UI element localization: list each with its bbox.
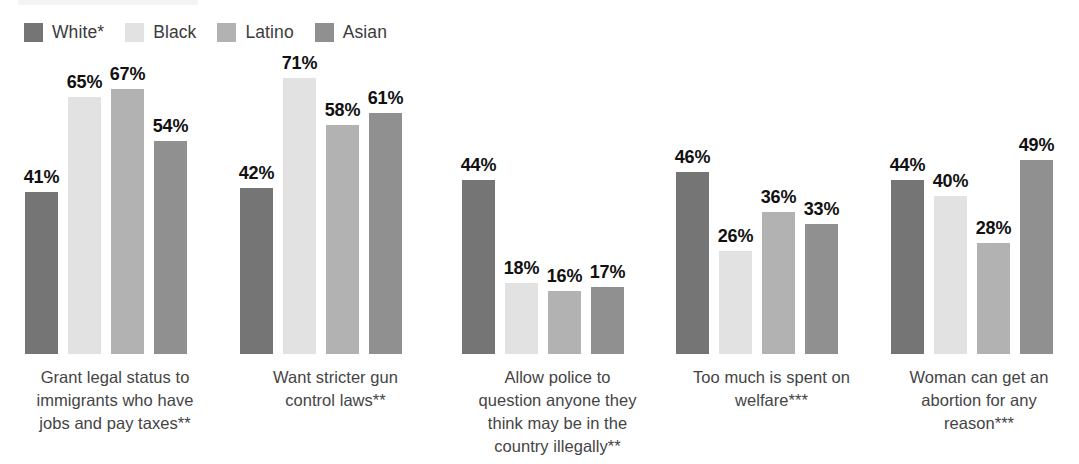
category-label-line: reason*** bbox=[879, 412, 1079, 435]
bar-group: 41%65%67%54% bbox=[25, 54, 187, 354]
bar-slot[interactable]: 18% bbox=[505, 54, 538, 354]
bar-rect[interactable] bbox=[591, 287, 624, 354]
category-label-line: Woman can get an bbox=[879, 366, 1079, 389]
bar-value-label: 26% bbox=[718, 227, 753, 245]
scan-artifact bbox=[18, 0, 198, 5]
category-label-line: welfare*** bbox=[664, 389, 879, 412]
bar-group: 46%26%36%33% bbox=[676, 54, 838, 354]
bar-group-bars: 44%40%28%49% bbox=[891, 54, 1053, 354]
bar-group-bars: 46%26%36%33% bbox=[676, 54, 838, 354]
bar-value-label: 61% bbox=[368, 89, 403, 107]
category-label-line: country illegally** bbox=[450, 435, 665, 458]
legend-swatch-icon bbox=[315, 23, 334, 42]
bar-slot[interactable]: 44% bbox=[462, 54, 495, 354]
bar-rect[interactable] bbox=[111, 89, 144, 354]
bar-rect[interactable] bbox=[462, 180, 495, 354]
bar-rect[interactable] bbox=[891, 180, 924, 354]
bar-rect[interactable] bbox=[977, 243, 1010, 354]
bar-rect[interactable] bbox=[805, 224, 838, 354]
bar-value-label: 44% bbox=[461, 156, 496, 174]
category-label-line: jobs and pay taxes** bbox=[0, 412, 230, 435]
category-label-line: question anyone they bbox=[450, 389, 665, 412]
category-label-line: Allow police to bbox=[450, 366, 665, 389]
bar-value-label: 40% bbox=[933, 172, 968, 190]
bar-value-label: 65% bbox=[67, 73, 102, 91]
category-label-line: Too much is spent on bbox=[664, 366, 879, 389]
bar-group: 44%18%16%17% bbox=[462, 54, 624, 354]
legend-item-white[interactable]: White* bbox=[24, 22, 104, 43]
bar-rect[interactable] bbox=[154, 141, 187, 354]
legend-label: Asian bbox=[343, 22, 387, 43]
bar-value-label: 67% bbox=[110, 65, 145, 83]
bar-group-bars: 44%18%16%17% bbox=[462, 54, 624, 354]
bar-rect[interactable] bbox=[762, 212, 795, 354]
bar-slot[interactable]: 71% bbox=[283, 54, 316, 354]
bar-rect[interactable] bbox=[68, 97, 101, 354]
bar-rect[interactable] bbox=[326, 125, 359, 354]
bar-value-label: 17% bbox=[590, 263, 625, 281]
chart-container: White*BlackLatinoAsian 41%65%67%54%42%71… bbox=[0, 0, 1079, 464]
bar-slot[interactable]: 67% bbox=[111, 54, 144, 354]
legend-label: Black bbox=[153, 22, 196, 43]
legend-item-black[interactable]: Black bbox=[125, 22, 196, 43]
bar-value-label: 36% bbox=[761, 188, 796, 206]
category-label: Woman can get anabortion for anyreason**… bbox=[879, 366, 1079, 435]
bar-value-label: 33% bbox=[804, 200, 839, 218]
bar-group: 42%71%58%61% bbox=[240, 54, 402, 354]
bar-group: 44%40%28%49% bbox=[891, 54, 1053, 354]
bar-slot[interactable]: 26% bbox=[719, 54, 752, 354]
bar-value-label: 46% bbox=[675, 148, 710, 166]
legend-swatch-icon bbox=[24, 23, 43, 42]
category-label-line: immigrants who have bbox=[0, 389, 230, 412]
bar-rect[interactable] bbox=[676, 172, 709, 354]
category-label: Grant legal status toimmigrants who have… bbox=[0, 366, 230, 435]
bar-slot[interactable]: 40% bbox=[934, 54, 967, 354]
bar-slot[interactable]: 44% bbox=[891, 54, 924, 354]
category-label: Too much is spent onwelfare*** bbox=[664, 366, 879, 412]
bar-rect[interactable] bbox=[548, 291, 581, 354]
category-label-line: Want stricter gun bbox=[228, 366, 443, 389]
bar-value-label: 49% bbox=[1019, 136, 1054, 154]
bar-rect[interactable] bbox=[25, 192, 58, 354]
bar-slot[interactable]: 33% bbox=[805, 54, 838, 354]
bar-group-bars: 41%65%67%54% bbox=[25, 54, 187, 354]
bar-value-label: 42% bbox=[239, 164, 274, 182]
bar-slot[interactable]: 61% bbox=[369, 54, 402, 354]
bar-slot[interactable]: 41% bbox=[25, 54, 58, 354]
category-label: Allow police toquestion anyone theythink… bbox=[450, 366, 665, 458]
plot-area: 41%65%67%54%42%71%58%61%44%18%16%17%46%2… bbox=[0, 54, 1079, 354]
category-label-line: control laws** bbox=[228, 389, 443, 412]
category-label-line: abortion for any bbox=[879, 389, 1079, 412]
category-label-line: Grant legal status to bbox=[0, 366, 230, 389]
chart-legend: White*BlackLatinoAsian bbox=[24, 21, 408, 43]
bar-value-label: 16% bbox=[547, 267, 582, 285]
legend-item-asian[interactable]: Asian bbox=[315, 22, 387, 43]
bar-rect[interactable] bbox=[719, 251, 752, 354]
bar-rect[interactable] bbox=[369, 113, 402, 354]
bar-slot[interactable]: 54% bbox=[154, 54, 187, 354]
category-axis-labels: Grant legal status toimmigrants who have… bbox=[0, 366, 1079, 464]
bar-slot[interactable]: 17% bbox=[591, 54, 624, 354]
legend-item-latino[interactable]: Latino bbox=[217, 22, 293, 43]
bar-slot[interactable]: 58% bbox=[326, 54, 359, 354]
bar-slot[interactable]: 16% bbox=[548, 54, 581, 354]
bar-rect[interactable] bbox=[505, 283, 538, 354]
bar-rect[interactable] bbox=[240, 188, 273, 354]
legend-swatch-icon bbox=[125, 23, 144, 42]
bar-rect[interactable] bbox=[283, 78, 316, 354]
bar-value-label: 41% bbox=[24, 168, 59, 186]
bar-rect[interactable] bbox=[934, 196, 967, 354]
bar-value-label: 71% bbox=[282, 54, 317, 72]
bar-slot[interactable]: 36% bbox=[762, 54, 795, 354]
bar-value-label: 58% bbox=[325, 101, 360, 119]
bar-slot[interactable]: 28% bbox=[977, 54, 1010, 354]
bar-slot[interactable]: 49% bbox=[1020, 54, 1053, 354]
bar-slot[interactable]: 65% bbox=[68, 54, 101, 354]
legend-swatch-icon bbox=[217, 23, 236, 42]
bar-rect[interactable] bbox=[1020, 160, 1053, 354]
legend-label: White* bbox=[52, 22, 104, 43]
bar-value-label: 54% bbox=[153, 117, 188, 135]
bar-slot[interactable]: 46% bbox=[676, 54, 709, 354]
bar-slot[interactable]: 42% bbox=[240, 54, 273, 354]
bar-value-label: 18% bbox=[504, 259, 539, 277]
